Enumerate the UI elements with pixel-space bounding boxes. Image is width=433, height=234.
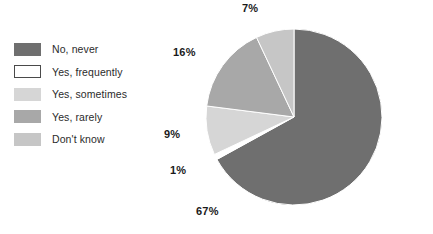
pie-slice-group (206, 29, 382, 205)
legend-item-yes-frequently: Yes, frequently (14, 61, 154, 84)
legend-swatch-yes-sometimes (14, 88, 41, 101)
legend-label-yes-rarely: Yes, rarely (52, 111, 102, 123)
legend-swatch-yes-frequently (14, 65, 41, 78)
legend-label-dont-know: Don't know (52, 133, 105, 145)
legend-swatch-no-never (14, 43, 41, 56)
legend-item-dont-know: Don't know (14, 128, 154, 151)
legend-item-yes-sometimes: Yes, sometimes (14, 83, 154, 106)
pie-value-label-yes-sometimes: 9% (164, 128, 180, 140)
pie-plot-area: 7% 16% 9% 1% 67% (155, 0, 433, 234)
legend-item-yes-rarely: Yes, rarely (14, 106, 154, 129)
pie-value-label-no-never: 67% (196, 205, 219, 217)
legend-swatch-dont-know (14, 133, 41, 146)
pie-svg (155, 0, 433, 234)
chart-legend: No, never Yes, frequently Yes, sometimes… (14, 38, 154, 151)
pie-chart-figure: No, never Yes, frequently Yes, sometimes… (0, 0, 433, 234)
legend-label-yes-sometimes: Yes, sometimes (52, 88, 127, 100)
pie-value-label-dont-know: 7% (242, 2, 258, 14)
legend-label-yes-frequently: Yes, frequently (52, 66, 123, 78)
legend-item-no-never: No, never (14, 38, 154, 61)
pie-value-label-yes-frequently: 1% (170, 164, 186, 176)
pie-value-label-yes-rarely: 16% (173, 46, 196, 58)
legend-label-no-never: No, never (52, 43, 98, 55)
legend-swatch-yes-rarely (14, 110, 41, 123)
